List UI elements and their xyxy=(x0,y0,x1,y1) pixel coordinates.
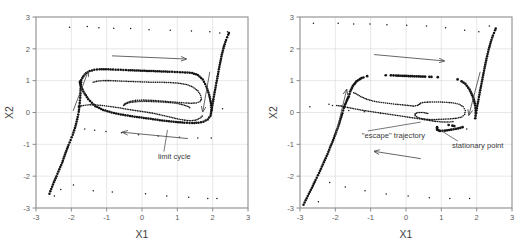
data-point xyxy=(208,93,211,96)
data-point xyxy=(159,119,162,122)
data-point xyxy=(166,82,168,84)
data-point xyxy=(378,112,380,114)
data-point xyxy=(124,114,127,117)
data-point xyxy=(410,105,412,107)
data-point xyxy=(185,120,187,122)
data-point xyxy=(165,115,167,117)
data-point xyxy=(177,103,179,105)
data-point xyxy=(406,25,408,27)
data-point xyxy=(416,116,418,118)
data-point xyxy=(131,81,133,83)
data-point xyxy=(164,101,166,103)
data-point xyxy=(94,81,96,83)
data-point xyxy=(206,118,209,121)
data-point xyxy=(88,104,90,106)
data-series-upper-right-tail xyxy=(210,32,230,111)
data-point xyxy=(483,69,486,72)
data-point xyxy=(69,139,72,142)
data-point xyxy=(107,105,109,107)
data-point xyxy=(480,82,483,85)
data-point xyxy=(215,82,218,85)
data-point xyxy=(118,107,120,109)
data-point xyxy=(438,121,440,123)
data-point xyxy=(140,81,142,83)
data-point xyxy=(380,112,382,114)
data-point xyxy=(422,119,424,121)
data-point xyxy=(86,26,88,28)
data-point xyxy=(405,116,407,118)
data-point xyxy=(432,101,434,103)
data-point xyxy=(120,107,122,109)
data-point xyxy=(149,118,152,121)
data-point xyxy=(62,159,65,162)
data-point xyxy=(105,131,107,133)
data-point xyxy=(142,81,144,83)
data-point xyxy=(135,110,137,112)
data-point xyxy=(162,82,164,84)
data-point xyxy=(140,116,143,119)
data-point xyxy=(309,106,311,108)
data-point xyxy=(184,104,186,106)
data-point xyxy=(486,53,489,56)
data-point xyxy=(212,100,215,103)
data-point xyxy=(481,80,484,83)
data-point xyxy=(356,93,358,95)
right-plot-panel: -3-2-10123-3-2-10123X1X2"escape" traject… xyxy=(264,0,529,244)
data-point xyxy=(195,119,197,121)
data-point xyxy=(444,118,446,120)
data-point xyxy=(120,69,123,72)
data-point xyxy=(151,81,153,83)
data-point xyxy=(474,117,477,120)
data-point xyxy=(440,121,442,123)
data-point xyxy=(185,105,187,107)
data-point xyxy=(126,81,128,83)
data-point xyxy=(147,101,149,103)
data-point xyxy=(164,115,166,117)
data-point xyxy=(364,190,366,192)
phase-portrait-figure: -3-2-10123-3-2-10123X1X2limit cycle X1 X… xyxy=(0,0,529,244)
data-point xyxy=(444,121,446,123)
data-point xyxy=(103,80,105,82)
data-point xyxy=(377,101,379,103)
data-point xyxy=(170,117,172,119)
data-point xyxy=(186,71,189,74)
data-point xyxy=(407,195,409,197)
data-point xyxy=(353,92,355,94)
data-point xyxy=(213,96,216,99)
data-point xyxy=(478,94,481,97)
data-point xyxy=(137,110,139,112)
data-point xyxy=(428,101,430,103)
data-point xyxy=(171,82,173,84)
data-point xyxy=(79,97,82,100)
data-point xyxy=(202,115,204,117)
data-point xyxy=(410,117,412,119)
data-point xyxy=(115,80,117,82)
data-point xyxy=(490,41,493,44)
data-point xyxy=(303,201,306,204)
data-point xyxy=(86,104,88,106)
data-point xyxy=(420,118,422,120)
data-point xyxy=(430,120,432,122)
data-point xyxy=(136,101,138,103)
data-point xyxy=(168,102,170,104)
data-point xyxy=(417,112,419,114)
data-point xyxy=(464,30,466,32)
data-point xyxy=(148,29,150,31)
data-point xyxy=(167,116,169,118)
data-point xyxy=(216,80,219,83)
data-point xyxy=(448,118,450,120)
data-point xyxy=(154,118,157,121)
y-tick-label: 1 xyxy=(26,76,30,85)
data-point xyxy=(73,129,76,132)
data-point xyxy=(350,107,352,109)
data-point xyxy=(138,101,140,103)
data-point xyxy=(193,120,195,122)
data-point xyxy=(109,80,111,82)
data-point xyxy=(180,102,182,104)
data-point xyxy=(203,80,206,83)
data-point xyxy=(198,92,200,94)
data-point xyxy=(451,102,453,104)
data-point xyxy=(84,128,86,130)
x-tick-label: 0 xyxy=(140,213,144,222)
data-point xyxy=(449,102,451,104)
